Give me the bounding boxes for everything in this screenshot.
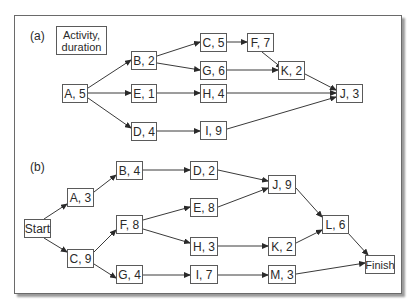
legend-line1: Activity, bbox=[63, 29, 100, 41]
node-b-G: G, 4 bbox=[116, 265, 143, 284]
panel-b-label: (b) bbox=[30, 160, 45, 174]
panel-a-label: (a) bbox=[30, 29, 45, 43]
node-b-A: A, 3 bbox=[67, 188, 94, 207]
edge-b-E-J bbox=[218, 188, 268, 207]
edge-b-J-L bbox=[296, 188, 322, 217]
node-a-I: I, 9 bbox=[200, 121, 227, 140]
edge-b-L-Finish bbox=[348, 233, 368, 255]
node-b-I: I, 7 bbox=[190, 265, 218, 284]
node-a-A: A, 5 bbox=[62, 84, 88, 103]
edge-b-C-G bbox=[94, 264, 116, 278]
node-b-C: C, 9 bbox=[67, 249, 94, 268]
edge-a-B-G bbox=[157, 63, 200, 70]
node-b-Finish: Finish bbox=[365, 255, 395, 274]
node-b-E: E, 8 bbox=[190, 198, 218, 217]
edge-a-A-B bbox=[88, 60, 131, 88]
edge-a-B-C bbox=[157, 42, 200, 56]
node-b-J: J, 9 bbox=[268, 175, 296, 194]
edge-b-K-L bbox=[296, 230, 322, 243]
node-b-B: B, 4 bbox=[116, 161, 143, 180]
node-a-J: J, 3 bbox=[336, 84, 363, 103]
legend-box: Activity, duration bbox=[56, 26, 107, 55]
node-a-C: C, 5 bbox=[200, 33, 227, 52]
node-a-G: G, 6 bbox=[200, 61, 227, 80]
edge-b-A-B bbox=[94, 175, 116, 192]
node-b-K: K, 2 bbox=[268, 237, 296, 256]
edge-b-F-E bbox=[143, 207, 190, 220]
edge-b-Start-A bbox=[44, 204, 67, 219]
node-b-Start: Start bbox=[24, 219, 51, 238]
node-b-H: H, 3 bbox=[190, 237, 218, 256]
node-b-L: L, 6 bbox=[322, 215, 349, 234]
node-a-F: F, 7 bbox=[247, 33, 274, 52]
legend-line2: duration bbox=[62, 41, 102, 53]
edge-b-F-H bbox=[143, 229, 190, 243]
node-a-E: E, 1 bbox=[131, 84, 157, 103]
node-a-D: D, 4 bbox=[131, 122, 157, 141]
edge-b-Start-C bbox=[44, 238, 67, 252]
edge-a-A-D bbox=[88, 98, 131, 128]
edge-b-D-J bbox=[218, 170, 268, 181]
edge-a-K-J bbox=[305, 74, 336, 90]
node-a-H: H, 4 bbox=[200, 84, 227, 103]
edge-a-I-J bbox=[227, 97, 336, 129]
node-b-F: F, 8 bbox=[116, 215, 143, 234]
node-a-B: B, 2 bbox=[131, 51, 157, 70]
edge-b-C-F bbox=[94, 230, 116, 252]
node-b-M: M, 3 bbox=[268, 265, 296, 284]
node-a-K: K, 2 bbox=[278, 61, 305, 80]
node-b-D: D, 2 bbox=[190, 161, 218, 180]
edge-b-M-Finish bbox=[296, 263, 365, 274]
